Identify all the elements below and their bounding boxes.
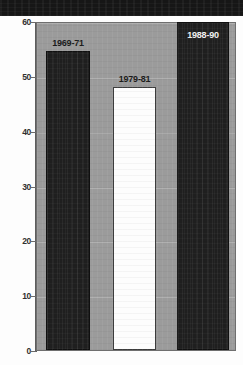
y-tick-label-60: 60 bbox=[0, 17, 31, 27]
bar-1988-90 bbox=[177, 22, 229, 350]
y-tick-label-40: 40 bbox=[0, 127, 31, 137]
bar-1969-71 bbox=[46, 51, 90, 350]
bar-label-1988-90: 1988-90 bbox=[169, 30, 237, 40]
header-black-band bbox=[0, 0, 243, 16]
y-tick-label-10: 10 bbox=[0, 291, 31, 301]
y-tick-mark bbox=[30, 351, 36, 352]
bar-texture bbox=[178, 23, 228, 349]
plot-area: 1969-711979-811988-90 bbox=[36, 22, 236, 351]
y-tick-label-20: 20 bbox=[0, 236, 31, 246]
bar-label-1979-81: 1979-81 bbox=[105, 74, 164, 84]
bar-1979-81 bbox=[113, 87, 156, 350]
y-tick-label-0: 0 bbox=[0, 346, 31, 356]
y-tick-label-50: 50 bbox=[0, 72, 31, 82]
chart-figure: 0102030405060 1969-711979-811988-90 bbox=[0, 0, 243, 365]
header-band-texture bbox=[0, 0, 243, 16]
bar-label-1969-71: 1969-71 bbox=[38, 38, 98, 48]
bar-texture bbox=[47, 52, 89, 349]
y-tick-label-30: 30 bbox=[0, 182, 31, 192]
